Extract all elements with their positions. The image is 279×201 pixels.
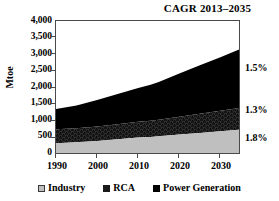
x-tick-mark-2020 (178, 154, 179, 158)
legend-item-rca: RCA (103, 183, 135, 193)
x-tick-mark-2010 (137, 154, 138, 158)
legend-swatch-rca-icon (103, 185, 110, 192)
cagr-annotation-rca: 1.3% (245, 104, 279, 115)
y-tick-label-4000: 4,000 (18, 16, 52, 26)
legend-label-power-generation: Power Generation (163, 183, 241, 193)
y-tick-label-1000: 1,000 (18, 115, 52, 125)
legend-label-rca: RCA (113, 183, 135, 193)
y-tick-label-1500: 1,500 (18, 98, 52, 108)
legend-item-power-generation: Power Generation (153, 183, 241, 193)
x-tick-mark-1990 (55, 154, 56, 158)
x-tick-label-2010: 2010 (119, 160, 159, 171)
y-tick-label-0: 0 (18, 148, 52, 158)
x-tick-label-2030: 2030 (201, 160, 241, 171)
x-tick-mark-2000 (96, 154, 97, 158)
legend-swatch-power-generation-icon (153, 185, 160, 192)
y-tick-label-3500: 3,500 (18, 32, 52, 42)
legend-label-industry: Industry (48, 183, 85, 193)
plot-area (55, 20, 240, 154)
y-tick-label-500: 500 (18, 131, 52, 141)
legend-item-industry: Industry (38, 183, 85, 193)
y-tick-label-3000: 3,000 (18, 49, 52, 59)
x-tick-mark-2030 (219, 154, 220, 158)
x-tick-label-2020: 2020 (160, 160, 200, 171)
chart-title: CAGR 2013–2035 (140, 2, 275, 14)
chart-legend: Industry RCA Power Generation (0, 183, 279, 193)
y-axis-title: Mtoe (4, 53, 15, 103)
legend-swatch-industry-icon (38, 185, 45, 192)
y-tick-label-2500: 2,500 (18, 65, 52, 75)
chart-figure: CAGR 2013–2035 Mtoe 4,000 3,500 3,000 2,… (0, 0, 279, 201)
cagr-annotation-power-generation: 1.5% (245, 62, 279, 73)
stacked-area-svg (56, 21, 240, 154)
x-tick-label-1990: 1990 (37, 160, 77, 171)
x-tick-label-2000: 2000 (78, 160, 118, 171)
cagr-annotation-industry: 1.8% (245, 132, 279, 143)
y-tick-label-2000: 2,000 (18, 82, 52, 92)
